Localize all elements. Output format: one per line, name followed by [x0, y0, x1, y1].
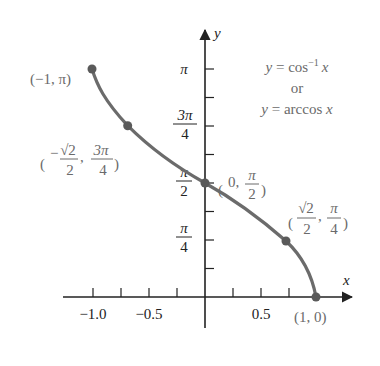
svg-text:4: 4 [99, 162, 107, 178]
svg-text:4: 4 [180, 239, 188, 255]
point-1-0 [312, 293, 321, 302]
svg-text:2: 2 [180, 183, 188, 199]
svg-text:2: 2 [248, 186, 256, 202]
svg-text:3π: 3π [92, 142, 109, 158]
point-neg-sqrt2-3pi4 [123, 121, 132, 130]
x-tick-label: 0.5 [252, 306, 271, 322]
point-0-pi2 [201, 179, 210, 188]
svg-text:π: π [248, 167, 256, 183]
svg-text:,: , [80, 149, 84, 165]
point-sqrt2-pi4 [282, 237, 291, 246]
y-ticks [205, 69, 214, 269]
point-label-neg1-pi: (−1, π) [30, 71, 71, 88]
arccos-graph: x y −1.0 −0.5 0.5 π 4 π 2 3π 4 π (−1, π)… [0, 0, 380, 366]
svg-text:): ) [261, 182, 266, 199]
point-neg1-pi [88, 65, 97, 74]
svg-text:√2: √2 [60, 142, 76, 158]
svg-text:4: 4 [181, 126, 189, 142]
svg-text:π: π [330, 200, 338, 216]
svg-text:3π: 3π [176, 107, 193, 123]
y-tick-label-pi: π [180, 61, 188, 77]
svg-text:0,: 0, [228, 174, 239, 190]
y-axis-label: y [212, 25, 221, 41]
x-axis-label: x [342, 272, 350, 288]
svg-text:√2: √2 [298, 200, 314, 216]
svg-text:−: − [50, 145, 58, 161]
point-label-sqrt2-pi4: ( √2 2 , π 4 ) [288, 200, 348, 237]
svg-text:or: or [291, 80, 304, 96]
svg-text:2: 2 [66, 162, 74, 178]
svg-text:): ) [114, 156, 119, 173]
svg-text:π: π [180, 220, 188, 236]
x-ticks [93, 288, 289, 297]
y-tick-label-pi-4: π 4 [176, 220, 192, 255]
svg-text:,: , [318, 208, 322, 224]
y-tick-label-3pi-4: 3π 4 [173, 107, 197, 142]
svg-text:(: ( [288, 215, 293, 232]
svg-text:y = arccos x: y = arccos x [259, 101, 333, 117]
equation-title: y = cos−1x or y = arccos x [259, 57, 333, 117]
point-label-1-0: (1, 0) [294, 309, 327, 326]
svg-text:(: ( [40, 156, 45, 173]
svg-text:(: ( [218, 182, 223, 199]
svg-text:): ) [343, 215, 348, 232]
svg-text:y = cos−1x: y = cos−1x [264, 57, 329, 75]
x-tick-label: −0.5 [135, 306, 162, 322]
x-tick-label: −1.0 [79, 306, 106, 322]
svg-text:4: 4 [330, 221, 338, 237]
svg-text:2: 2 [303, 221, 311, 237]
point-label-neg-sqrt2-3pi4: ( − √2 2 , 3π 4 ) [40, 142, 119, 178]
